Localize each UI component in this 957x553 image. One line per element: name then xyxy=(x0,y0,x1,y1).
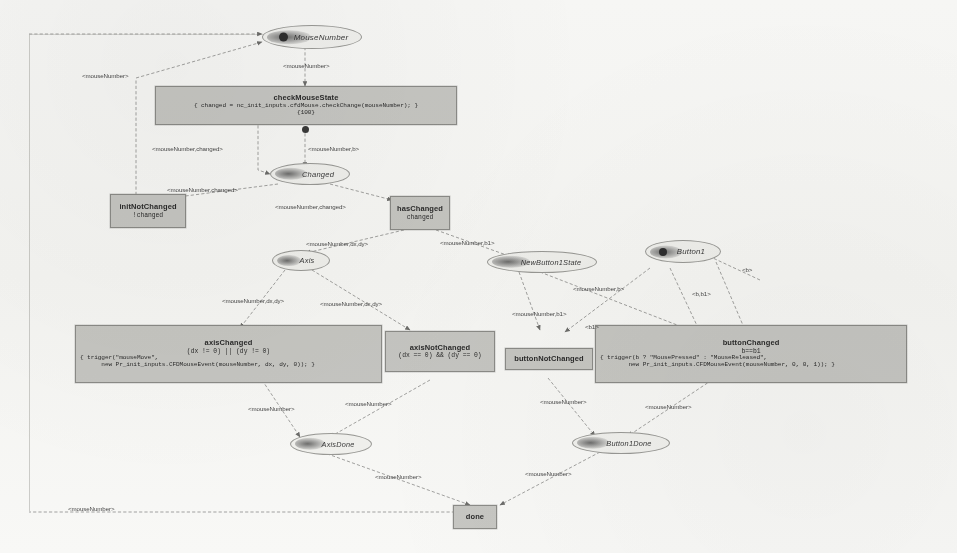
edge-label-mouse-number-b: <mouseNumber,b> xyxy=(308,145,359,152)
node-axis-done[interactable]: AxisDone xyxy=(290,433,372,455)
node-label: NewButton1State xyxy=(503,258,582,267)
node-title: axisChanged xyxy=(205,339,253,347)
node-axis[interactable]: Axis xyxy=(272,250,330,271)
node-condition: changed xyxy=(407,214,434,221)
node-button-changed[interactable]: buttonChanged b==b1 { trigger(b ? "Mouse… xyxy=(595,325,907,383)
node-title: buttonNotChanged xyxy=(514,355,584,363)
node-mouse-number[interactable]: MouseNumber xyxy=(262,25,362,49)
node-axis-changed[interactable]: axisChanged (dx != 0) || (dy != 0) { tri… xyxy=(75,325,382,383)
edge-label-mouse-number-b1: <mouseNumber,b1> xyxy=(440,239,494,246)
edge-label-mouse-number-dx-dy: <mouseNumber,dx,dy> xyxy=(306,240,368,247)
edge-label-mouse-number-changed: <mouseNumber,changed> xyxy=(152,145,223,152)
node-label: AxisDone xyxy=(308,440,355,449)
edge-label-mouse-number-out-2: <mouseNumber> xyxy=(345,400,392,407)
edge-label-mouse-number-changed-3: <mouseNumber,changed> xyxy=(275,203,346,210)
node-init-not-changed[interactable]: initNotChanged !changed xyxy=(110,194,186,228)
edge-junction-dot xyxy=(302,126,309,133)
node-done[interactable]: done xyxy=(453,505,497,529)
node-code-line-2: new Pr_init_inputs.CFDMouseEvent(mouseNu… xyxy=(596,362,835,369)
node-title: axisNotChanged xyxy=(410,344,471,352)
node-changed[interactable]: Changed xyxy=(270,163,350,185)
edge-label-b: <b> xyxy=(742,266,752,273)
edge-label-mouse-number-changed-2: <mouseNumber,changed> xyxy=(167,186,238,193)
node-code-line-2: {100} xyxy=(297,110,315,117)
node-has-changed[interactable]: hasChanged changed xyxy=(390,196,450,230)
node-code-line-2: new Pr_init_inputs.CFDMouseEvent(mouseNu… xyxy=(76,362,315,369)
edge-label-b1: <b1> xyxy=(585,323,599,330)
node-label: Button1Done xyxy=(590,439,651,448)
node-check-mouse-state[interactable]: checkMouseState { changed = nc_init_inpu… xyxy=(155,86,457,125)
edge-label-mouse-number-out-4: <mouseNumber> xyxy=(645,403,692,410)
edge-label-mouse-number-done-left: <mouseNumber> xyxy=(375,473,422,480)
node-label: MouseNumber xyxy=(276,33,349,42)
node-label: Changed xyxy=(286,170,334,179)
node-button1[interactable]: Button1 xyxy=(645,240,721,263)
node-condition: !changed xyxy=(133,212,163,219)
edge-label-mouse-number-dx-dy-3: <mouseNumber,dx,dy> xyxy=(320,300,382,307)
node-title: hasChanged xyxy=(397,205,443,213)
edge-layer xyxy=(0,0,957,553)
edge-label-mouse-number-feedback: <mouseNumber> xyxy=(82,72,129,79)
edge-label-mouse-number-top: <mouseNumber> xyxy=(283,62,330,69)
edge-label-mouse-number-dx-dy-2: <mouseNumber,dx,dy> xyxy=(222,297,284,304)
diagram-canvas: MouseNumber checkMouseState { changed = … xyxy=(0,0,957,553)
edge-label-mouse-number-b1-2: <mouseNumber,b1> xyxy=(512,310,566,317)
node-condition: (dx == 0) && (dy == 0) xyxy=(398,352,481,359)
node-condition: (dx != 0) || (dy != 0) xyxy=(187,348,270,355)
edge-label-mouse-number-out-3: <mouseNumber> xyxy=(540,398,587,405)
edge-label-mouse-number-loopback: <mouseNumber> xyxy=(68,505,115,512)
node-label: Button1 xyxy=(661,247,705,256)
edge-label-mouse-number-done-right: <mouseNumber> xyxy=(525,470,572,477)
node-new-button1-state[interactable]: NewButton1State xyxy=(487,251,597,273)
node-axis-not-changed[interactable]: axisNotChanged (dx == 0) && (dy == 0) xyxy=(385,331,495,372)
node-button-not-changed[interactable]: buttonNotChanged xyxy=(505,348,593,370)
node-title: initNotChanged xyxy=(119,203,176,211)
edge-label-mouse-number-b-2: <mouseNumber,b> xyxy=(573,285,624,292)
node-title: buttonChanged xyxy=(723,339,780,347)
node-title: done xyxy=(466,513,484,521)
edge-label-mouse-number-out-1: <mouseNumber> xyxy=(248,405,295,412)
node-label: Axis xyxy=(288,256,315,265)
node-button1-done[interactable]: Button1Done xyxy=(572,432,670,454)
edge-label-b-b1: <b,b1> xyxy=(692,290,711,297)
